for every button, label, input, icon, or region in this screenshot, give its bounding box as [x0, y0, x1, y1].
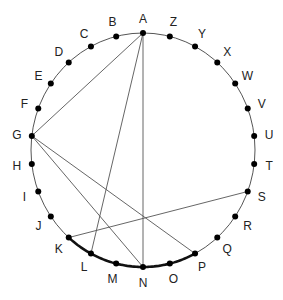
chord-k-s	[69, 191, 248, 237]
point-i	[35, 188, 41, 194]
point-c	[88, 43, 94, 49]
point-p	[192, 251, 198, 257]
label-o: O	[169, 272, 178, 286]
label-v: V	[258, 97, 266, 111]
label-c: C	[80, 27, 89, 41]
label-q: Q	[223, 242, 232, 256]
point-m	[113, 261, 119, 267]
label-b: B	[109, 15, 117, 29]
label-u: U	[265, 128, 274, 142]
label-i: I	[23, 190, 26, 204]
point-d	[66, 59, 72, 65]
point-z	[167, 33, 173, 39]
point-r	[232, 213, 238, 219]
point-w	[232, 81, 238, 87]
point-o	[167, 261, 173, 267]
point-h	[29, 161, 35, 167]
point-b	[113, 33, 119, 39]
point-q	[214, 235, 220, 241]
point-j	[48, 213, 54, 219]
label-m: M	[108, 272, 118, 286]
point-k	[66, 235, 72, 241]
label-a: A	[139, 12, 147, 26]
label-e: E	[34, 69, 42, 83]
highlighted-arc-k-to-p	[69, 238, 195, 267]
label-z: Z	[170, 15, 177, 29]
label-d: D	[54, 45, 63, 59]
point-l	[88, 251, 94, 257]
label-k: K	[55, 242, 63, 256]
label-x: X	[223, 45, 231, 59]
label-t: T	[265, 159, 273, 173]
label-r: R	[243, 219, 252, 233]
label-f: F	[21, 97, 28, 111]
point-g	[29, 133, 35, 139]
label-p: P	[198, 260, 206, 274]
chords	[32, 33, 248, 267]
point-e	[48, 81, 54, 87]
label-h: H	[13, 159, 22, 173]
point-u	[251, 133, 257, 139]
chord-g-p	[32, 136, 195, 254]
label-n: N	[139, 276, 148, 290]
circle-chord-diagram: ABCDEFGHIJKLMNOPQRSTUVWXYZ	[0, 0, 283, 300]
point-t	[251, 161, 257, 167]
point-a	[140, 30, 146, 36]
point-n	[140, 264, 146, 270]
label-y: Y	[198, 27, 206, 41]
point-f	[35, 106, 41, 112]
point-x	[214, 59, 220, 65]
chord-g-n	[32, 136, 143, 267]
point-v	[245, 106, 251, 112]
point-s	[245, 188, 251, 194]
label-g: G	[12, 128, 21, 142]
point-y	[192, 43, 198, 49]
label-w: W	[242, 69, 254, 83]
label-l: L	[81, 260, 88, 274]
label-s: S	[258, 190, 266, 204]
label-j: J	[36, 219, 42, 233]
